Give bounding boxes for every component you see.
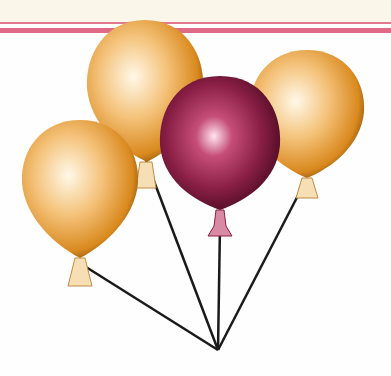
balloons-illustration (0, 0, 391, 376)
maroon-balloon-center (160, 76, 280, 236)
gold-balloon-front-left (22, 120, 138, 286)
